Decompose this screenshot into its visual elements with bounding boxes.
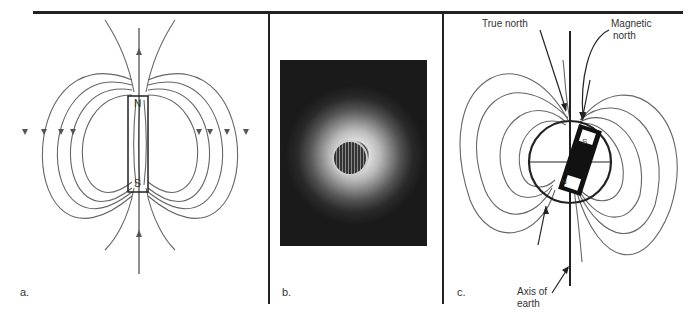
- panel-c-label: c.: [457, 286, 466, 298]
- magnetic-north-label-1: Magnetic: [611, 18, 652, 30]
- magnet-c-north-label: N: [561, 176, 567, 188]
- axis-of-earth-label-1: Axis of: [517, 286, 547, 298]
- panel-c-earth-field-diagram: [0, 0, 692, 314]
- true-north-label: True north: [482, 18, 528, 30]
- magnetic-north-label-2: north: [613, 30, 636, 42]
- magnet-c-south-label: S: [582, 136, 587, 148]
- axis-of-earth-label-2: earth: [517, 298, 540, 310]
